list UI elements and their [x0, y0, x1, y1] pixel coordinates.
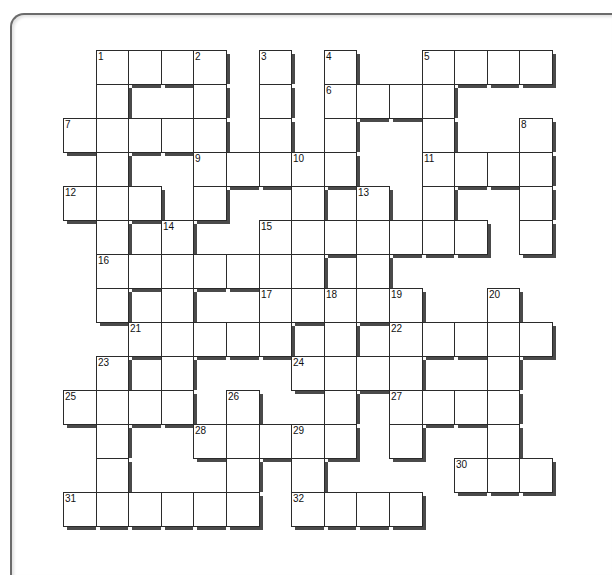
grid-cell[interactable] — [324, 424, 357, 459]
grid-cell[interactable]: 3 — [259, 50, 292, 85]
grid-cell[interactable]: 13 — [356, 186, 390, 221]
grid-cell[interactable] — [193, 118, 227, 153]
grid-cell[interactable] — [519, 220, 553, 255]
grid-cell[interactable] — [161, 390, 194, 425]
grid-cell[interactable] — [356, 492, 390, 527]
grid-cell[interactable] — [422, 322, 455, 357]
grid-cell[interactable] — [96, 390, 129, 425]
grid-cell[interactable] — [96, 492, 129, 527]
grid-cell[interactable] — [226, 254, 260, 289]
grid-cell[interactable] — [422, 186, 455, 221]
grid-cell[interactable] — [389, 492, 423, 527]
grid-cell[interactable] — [161, 492, 194, 527]
grid-cell[interactable]: 28 — [193, 424, 227, 459]
grid-cell[interactable]: 32 — [291, 492, 325, 527]
grid-cell[interactable] — [454, 390, 488, 425]
grid-cell[interactable]: 2 — [193, 50, 227, 85]
grid-cell[interactable]: 24 — [291, 356, 325, 391]
grid-cell[interactable] — [324, 220, 357, 255]
grid-cell[interactable] — [128, 254, 162, 289]
grid-cell[interactable] — [161, 118, 194, 153]
grid-cell[interactable] — [422, 390, 455, 425]
grid-cell[interactable] — [193, 492, 227, 527]
grid-cell[interactable] — [193, 254, 227, 289]
grid-cell[interactable] — [487, 390, 520, 425]
grid-cell[interactable] — [96, 118, 129, 153]
grid-cell[interactable] — [96, 424, 129, 459]
grid-cell[interactable] — [389, 424, 423, 459]
grid-cell[interactable]: 11 — [422, 152, 455, 187]
grid-cell[interactable] — [291, 458, 325, 493]
grid-cell[interactable] — [226, 322, 260, 357]
grid-cell[interactable] — [226, 492, 260, 527]
grid-cell[interactable]: 29 — [291, 424, 325, 459]
grid-cell[interactable]: 17 — [259, 288, 292, 323]
grid-cell[interactable] — [128, 186, 162, 221]
grid-cell[interactable] — [454, 152, 488, 187]
grid-cell[interactable] — [161, 288, 194, 323]
grid-cell[interactable]: 9 — [193, 152, 227, 187]
grid-cell[interactable] — [259, 424, 292, 459]
grid-cell[interactable]: 25 — [63, 390, 97, 425]
grid-cell[interactable] — [356, 220, 390, 255]
grid-cell[interactable] — [259, 254, 292, 289]
grid-cell[interactable] — [356, 254, 390, 289]
grid-cell[interactable] — [519, 50, 553, 85]
grid-cell[interactable] — [519, 186, 553, 221]
grid-cell[interactable] — [454, 220, 488, 255]
grid-cell[interactable] — [422, 220, 455, 255]
grid-cell[interactable]: 6 — [324, 84, 357, 119]
grid-cell[interactable] — [324, 390, 357, 425]
grid-cell[interactable]: 23 — [96, 356, 129, 391]
grid-cell[interactable] — [226, 152, 260, 187]
grid-cell[interactable]: 30 — [454, 458, 488, 493]
grid-cell[interactable]: 26 — [226, 390, 260, 425]
grid-cell[interactable] — [291, 254, 325, 289]
grid-cell[interactable] — [96, 152, 129, 187]
grid-cell[interactable] — [487, 356, 520, 391]
grid-cell[interactable] — [356, 356, 390, 391]
grid-cell[interactable]: 14 — [161, 220, 194, 255]
grid-cell[interactable] — [324, 118, 357, 153]
grid-cell[interactable] — [259, 322, 292, 357]
grid-cell[interactable]: 19 — [389, 288, 423, 323]
grid-cell[interactable]: 1 — [96, 50, 129, 85]
grid-cell[interactable] — [161, 50, 194, 85]
grid-cell[interactable]: 10 — [291, 152, 325, 187]
grid-cell[interactable] — [519, 322, 553, 357]
grid-cell[interactable] — [487, 458, 520, 493]
grid-cell[interactable] — [161, 254, 194, 289]
grid-cell[interactable] — [389, 356, 423, 391]
grid-cell[interactable]: 22 — [389, 322, 423, 357]
grid-cell[interactable] — [422, 84, 455, 119]
grid-cell[interactable] — [519, 458, 553, 493]
grid-cell[interactable] — [519, 152, 553, 187]
grid-cell[interactable] — [291, 288, 325, 323]
grid-cell[interactable] — [161, 322, 194, 357]
grid-cell[interactable] — [259, 84, 292, 119]
grid-cell[interactable] — [128, 492, 162, 527]
grid-cell[interactable] — [487, 152, 520, 187]
grid-cell[interactable] — [128, 390, 162, 425]
grid-cell[interactable] — [96, 186, 129, 221]
grid-cell[interactable] — [487, 322, 520, 357]
grid-cell[interactable]: 18 — [324, 288, 357, 323]
grid-cell[interactable]: 20 — [487, 288, 520, 323]
grid-cell[interactable] — [356, 288, 390, 323]
grid-cell[interactable]: 7 — [63, 118, 97, 153]
grid-cell[interactable]: 15 — [259, 220, 292, 255]
grid-cell[interactable]: 5 — [422, 50, 455, 85]
grid-cell[interactable] — [193, 186, 227, 221]
grid-cell[interactable] — [128, 50, 162, 85]
grid-cell[interactable] — [324, 322, 357, 357]
grid-cell[interactable] — [161, 356, 194, 391]
grid-cell[interactable] — [259, 152, 292, 187]
grid-cell[interactable] — [389, 84, 423, 119]
grid-cell[interactable] — [96, 220, 129, 255]
grid-cell[interactable]: 4 — [324, 50, 357, 85]
grid-cell[interactable] — [291, 186, 325, 221]
grid-cell[interactable]: 31 — [63, 492, 97, 527]
grid-cell[interactable] — [324, 356, 357, 391]
grid-cell[interactable]: 8 — [519, 118, 553, 153]
grid-cell[interactable] — [324, 152, 357, 187]
